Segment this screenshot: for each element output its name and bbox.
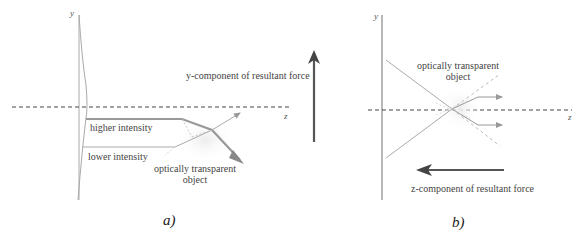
object-label-b: optically transparent object [410,60,506,82]
y-force-label: y-component of resultant force [186,70,310,81]
object-label-a-line1: optically transparent [152,163,238,174]
caption-a: a) [163,212,176,229]
object-label-a: optically transparent object [152,163,238,185]
object-label-a-line2: object [152,174,238,185]
caption-b: b) [452,214,465,231]
lower-intensity-label: lower intensity [88,151,148,162]
axis-label-y-a: y [70,8,74,18]
axis-label-z-b: z [568,112,572,122]
object-label-b-line1: optically transparent [410,60,506,71]
higher-intensity-label: higher intensity [90,122,153,133]
transparent-object-a [175,118,235,162]
transparent-object-b [440,86,480,130]
z-force-label: z-component of resultant force [411,183,534,194]
panel-b [368,15,572,200]
axis-label-z-a: z [284,111,288,121]
axis-label-y-b: y [374,11,378,21]
incoming-beam-bottom [386,109,452,158]
diagram-canvas [0,0,586,242]
object-label-b-line2: object [410,71,506,82]
